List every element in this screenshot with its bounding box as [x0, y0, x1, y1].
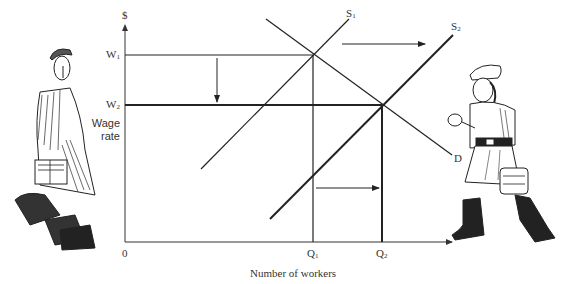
x-axis [125, 239, 453, 245]
demand-curve [266, 19, 452, 155]
worker-arriving-illustration [448, 65, 555, 242]
y-axis-title-line2: rate [78, 130, 120, 143]
w1-label: W1 [106, 49, 120, 63]
x-axis-title: Number of workers [250, 267, 336, 279]
origin-label: 0 [122, 248, 128, 259]
y-axis-title: Wage rate [78, 117, 120, 143]
q1-label: Q1 [307, 248, 318, 262]
y-axis-title-line1: Wage [78, 117, 120, 130]
s2-label: S2 [451, 21, 461, 35]
supply-demand-diagram: $ Wage rate W1 W2 0 Q1 Q2 S1 S2 D Number… [0, 0, 571, 284]
y-axis-symbol: $ [122, 10, 128, 21]
y-axis [122, 24, 128, 242]
q2-label: Q2 [376, 248, 387, 262]
s2-curve [270, 35, 453, 219]
worker-leaving-illustration [15, 49, 95, 250]
w2-label: W2 [106, 99, 120, 113]
demand-label: D [454, 153, 462, 164]
s1-label: S1 [346, 8, 356, 22]
s1-curve [201, 19, 349, 169]
